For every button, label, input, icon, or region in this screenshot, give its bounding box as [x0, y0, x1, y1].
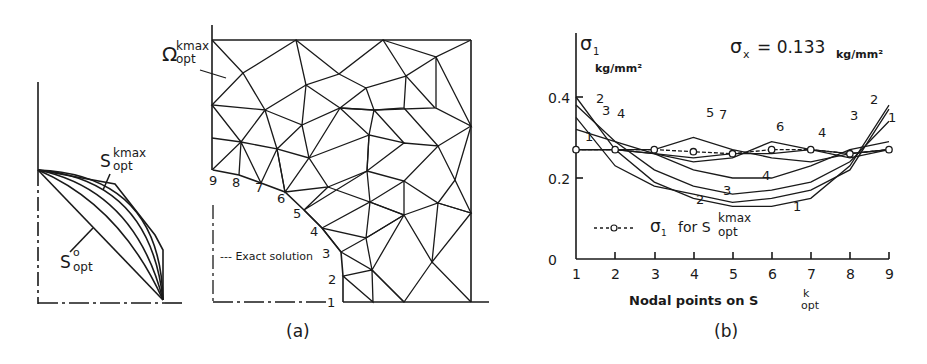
svg-text:σ: σ — [650, 216, 661, 236]
svg-text:4: 4 — [818, 125, 826, 140]
svg-text:8: 8 — [846, 266, 855, 282]
svg-text:opt: opt — [176, 52, 196, 66]
node-label-9: 9 — [209, 173, 217, 188]
node-label-8: 8 — [232, 175, 240, 190]
svg-text:for S: for S — [678, 219, 711, 235]
svg-text:1: 1 — [593, 46, 599, 57]
svg-text:9: 9 — [885, 266, 894, 282]
stress-chart: 0 0.2 0.4 1 2 3 4 5 6 7 8 9 2 3 4 1 5 7 … — [548, 32, 896, 341]
node-label-7: 7 — [255, 180, 263, 195]
exact-solution-legend: --- Exact solution — [220, 250, 313, 263]
caption-a: (a) — [286, 321, 310, 341]
s-kmax-label: S — [100, 151, 111, 171]
svg-text:3: 3 — [651, 266, 660, 282]
svg-text:1: 1 — [572, 266, 581, 282]
svg-text:5: 5 — [706, 105, 714, 120]
svg-text:kg/mm²: kg/mm² — [836, 48, 883, 61]
shape-labels: S kmax opt S o opt — [60, 146, 146, 274]
marker-circle — [808, 146, 814, 152]
svg-text:0: 0 — [548, 252, 557, 268]
svg-text:opt: opt — [801, 299, 820, 312]
svg-text:1: 1 — [661, 228, 667, 238]
svg-text:1: 1 — [585, 129, 593, 144]
svg-text:1: 1 — [888, 110, 896, 125]
svg-text:o: o — [73, 246, 80, 259]
svg-text:kmax: kmax — [176, 39, 209, 53]
svg-text:7: 7 — [807, 266, 816, 282]
svg-text:4: 4 — [762, 168, 770, 183]
svg-text:x: x — [743, 48, 750, 61]
marker-circle — [690, 148, 696, 154]
y-tick-labels: 0 0.2 0.4 — [548, 90, 570, 268]
svg-text:5: 5 — [729, 266, 738, 282]
svg-text:opt: opt — [113, 159, 133, 173]
svg-text:2: 2 — [870, 92, 878, 107]
marker-circle — [847, 151, 853, 157]
node-label-1: 1 — [327, 295, 335, 310]
node-label-6: 6 — [277, 191, 285, 206]
svg-text:0.4: 0.4 — [548, 90, 570, 106]
y-axis-label: σ — [580, 32, 592, 54]
node-label-5: 5 — [293, 206, 301, 221]
node-label-4: 4 — [310, 224, 318, 239]
svg-text:2: 2 — [611, 266, 620, 282]
caption-b: (b) — [714, 321, 738, 341]
x-axis-label: Nodal points on S — [629, 293, 758, 308]
svg-text:= 0.133: = 0.133 — [757, 37, 825, 57]
marker-circle — [768, 146, 774, 152]
marker-circle — [612, 146, 618, 152]
marker-circle — [651, 146, 657, 152]
chart-legend: σ 1 for S kmax opt — [594, 211, 751, 239]
y-axis-unit: kg/mm² — [595, 62, 642, 75]
figure: S kmax opt S o opt — [0, 0, 927, 364]
x-tick-labels: 1 2 3 4 5 6 7 8 9 — [572, 266, 894, 282]
svg-text:0.2: 0.2 — [548, 171, 570, 187]
svg-text:3: 3 — [602, 103, 610, 118]
node-label-3: 3 — [322, 246, 330, 261]
svg-text:2: 2 — [696, 192, 704, 207]
svg-text:6: 6 — [776, 119, 784, 134]
svg-text:kmax: kmax — [718, 211, 751, 225]
svg-text:kmax: kmax — [113, 146, 146, 160]
sigma-x-annotation: σ — [730, 35, 742, 57]
svg-text:4: 4 — [617, 106, 625, 121]
marker-circle — [729, 151, 735, 157]
node-label-2: 2 — [328, 272, 336, 287]
svg-text:3: 3 — [850, 108, 858, 123]
svg-text:1: 1 — [793, 199, 801, 214]
marker-circle — [886, 146, 892, 152]
svg-text:opt: opt — [73, 260, 93, 274]
marker-circle — [573, 146, 579, 152]
svg-text:7: 7 — [719, 107, 727, 122]
svg-text:opt: opt — [718, 225, 738, 239]
omega-label: Ω — [162, 42, 177, 66]
s-zero-label: S — [60, 252, 71, 272]
svg-text:3: 3 — [723, 183, 731, 198]
svg-text:4: 4 — [690, 266, 699, 282]
svg-text:6: 6 — [768, 266, 777, 282]
